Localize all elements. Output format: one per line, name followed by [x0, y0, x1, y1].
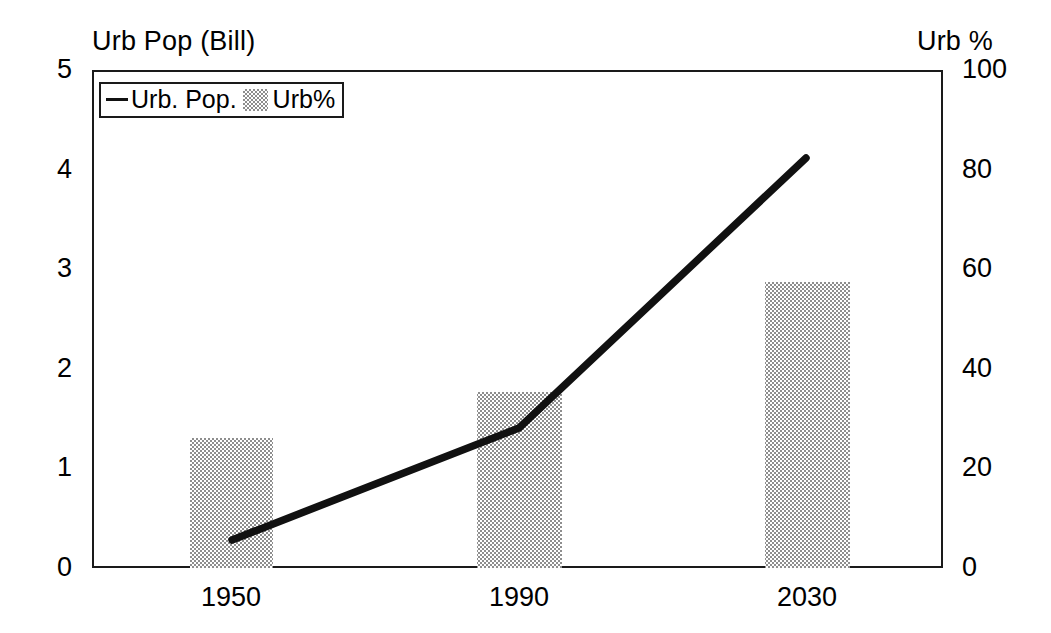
y-axis-left-tick-label: 0 [22, 554, 72, 581]
y-axis-right-tick-label: 40 [962, 355, 992, 382]
x-axis-tick-label: 1950 [201, 582, 261, 612]
legend-label-bar: Urb% [273, 87, 336, 112]
legend-bar-swatch-icon [243, 89, 268, 111]
plot-graphics [92, 70, 943, 568]
x-axis-tick-1990: 1990 [429, 582, 609, 613]
y-axis-left-tick-label: 2 [22, 355, 72, 382]
y-axis-right-tick-label: 20 [962, 454, 992, 481]
y-axis-left-tick-label: 4 [22, 156, 72, 183]
y-axis-left-tick-label: 1 [22, 454, 72, 481]
y-axis-right-tick-label: 0 [962, 554, 977, 581]
x-axis-tick-2030: 2030 [717, 582, 897, 613]
y-axis-right-tick-label: 100 [962, 56, 1007, 83]
bar-2030 [765, 282, 850, 568]
bar-1990 [477, 392, 562, 568]
chart-canvas: Urb Pop (Bill) Urb % 5 4 3 2 1 0 100 80 … [0, 0, 1051, 633]
x-axis-tick-label: 2030 [777, 582, 837, 612]
chart-legend: Urb. Pop. Urb% [99, 82, 344, 118]
bar-1950 [190, 438, 273, 568]
y-axis-left-tick-label: 5 [22, 56, 72, 83]
y-axis-left-tick-label: 3 [22, 255, 72, 282]
legend-label-line: Urb. Pop. [131, 87, 237, 112]
legend-line-swatch-icon [106, 98, 128, 101]
right-axis-title: Urb % [917, 26, 993, 57]
y-axis-right-tick-label: 80 [962, 156, 992, 183]
x-axis-tick-label: 1990 [489, 582, 549, 612]
y-axis-right-tick-label: 60 [962, 255, 992, 282]
x-axis-tick-1950: 1950 [141, 582, 321, 613]
left-axis-title: Urb Pop (Bill) [92, 26, 255, 57]
